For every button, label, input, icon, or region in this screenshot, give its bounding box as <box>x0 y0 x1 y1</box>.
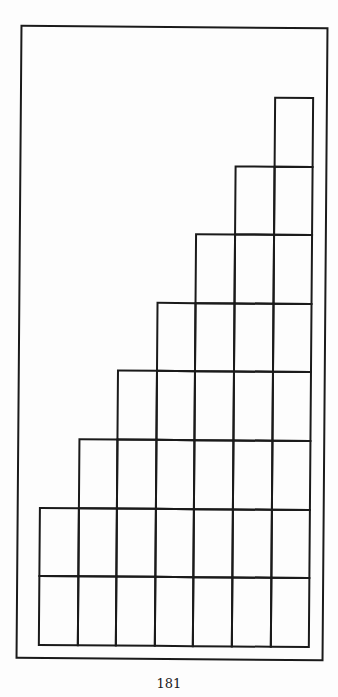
grid-cell <box>232 371 273 442</box>
grid-cell <box>272 303 313 374</box>
grid-cell <box>273 97 314 168</box>
grid-cell <box>270 508 311 579</box>
page: 181 <box>0 0 338 697</box>
grid-cell <box>115 576 156 647</box>
grid-cell <box>155 439 196 510</box>
grid-cell <box>155 370 196 441</box>
grid-cell <box>38 575 79 646</box>
grid-cell <box>193 439 234 510</box>
grid-cell <box>231 508 272 579</box>
grid-cell <box>269 577 310 648</box>
grid-cell <box>233 302 274 373</box>
grid-cell <box>194 371 235 442</box>
grid-cell <box>194 302 235 373</box>
grid-cell <box>273 165 314 236</box>
grid-cell <box>117 370 158 441</box>
grid-cell <box>154 507 195 578</box>
grid-cell <box>116 507 157 578</box>
grid-cell <box>154 576 195 647</box>
grid-cell <box>270 440 311 511</box>
grid-cell <box>232 439 273 510</box>
staircase-grid <box>0 0 338 697</box>
page-number: 181 <box>0 676 338 691</box>
grid-cell <box>38 507 79 578</box>
grid-cell <box>272 234 313 305</box>
grid-cell <box>116 439 157 510</box>
grid-cell <box>195 233 236 304</box>
grid-cell <box>234 234 275 305</box>
grid-cell <box>234 165 275 236</box>
grid-cell <box>231 577 272 648</box>
grid-cell <box>77 507 118 578</box>
grid-cell <box>271 371 312 442</box>
grid-cell <box>78 438 119 509</box>
grid-cell <box>193 508 234 579</box>
grid-cell <box>192 576 233 647</box>
grid-cell <box>76 575 117 646</box>
grid-cell <box>156 302 197 373</box>
